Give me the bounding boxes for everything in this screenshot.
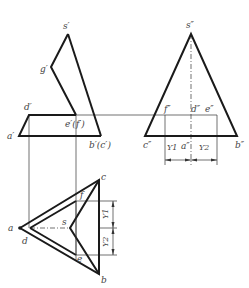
label-c-top: c (101, 172, 106, 182)
label-y2-top: Y2 (101, 237, 110, 247)
arrow-icon (185, 159, 191, 162)
arrow-icon (112, 228, 115, 234)
label-b-top: b (101, 275, 107, 285)
point-a (18, 226, 22, 230)
projection-drawing: s′ g′ d′ a′ e′(f′) b′(c′) s″ f″ d″ e″ c″… (0, 0, 249, 288)
label-a-side: a″ (181, 141, 190, 151)
arrow-icon (211, 159, 217, 162)
label-d-top: d (22, 236, 28, 246)
label-g-front: g′ (40, 64, 48, 74)
arrow-icon (165, 159, 171, 162)
top-de (30, 228, 76, 255)
front-view (19, 34, 101, 136)
label-a-front: a′ (7, 131, 14, 141)
label-d-front: d′ (24, 102, 32, 112)
label-s-front: s′ (63, 21, 70, 31)
label-s-side: s″ (186, 20, 195, 30)
label-d-side: d″ (191, 104, 201, 114)
arrow-icon (112, 201, 115, 207)
top-df (30, 201, 76, 228)
top-view (18, 180, 114, 274)
labels: s′ g′ d′ a′ e′(f′) b′(c′) s″ f″ d″ e″ c″… (7, 20, 245, 285)
front-base (19, 115, 101, 136)
label-f-top: f (79, 190, 85, 200)
label-s-top: s (62, 217, 67, 227)
label-bc-front: b′(c′) (89, 140, 111, 150)
label-y1-side: Y1 (167, 143, 177, 152)
label-ef-front: e′(f′) (65, 119, 85, 129)
label-c-side: c″ (143, 140, 152, 150)
label-b-side: b″ (235, 140, 245, 150)
arrow-icon (191, 159, 197, 162)
label-a-top: a (8, 223, 13, 233)
label-y2-side: Y2 (199, 143, 209, 152)
arrow-icon (112, 222, 115, 228)
label-y1-top: Y1 (101, 209, 110, 219)
arrow-icon (112, 249, 115, 255)
label-e-side: e″ (205, 104, 214, 114)
label-f-side: f″ (163, 104, 171, 114)
label-e-top: e (77, 254, 82, 264)
